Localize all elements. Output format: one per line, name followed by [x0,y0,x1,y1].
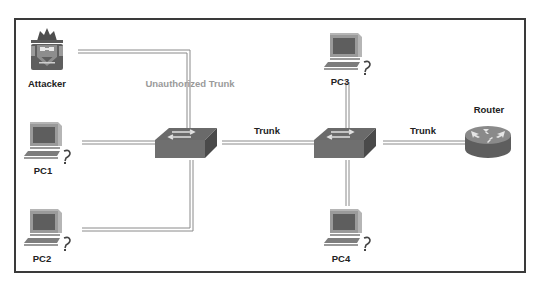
attacker-label: Attacker [28,78,66,89]
pc2-computer-icon [24,209,70,251]
unauthorized-trunk-label: Unauthorized Trunk [145,78,234,89]
link-pc3-switch2 [346,82,349,128]
link-pc1-switch1 [82,141,155,144]
link-attacker-switch1 [78,50,190,128]
link-pc4-switch2 [346,160,349,206]
pc3-computer-icon [324,33,370,75]
link-pc2-switch1 [82,160,193,231]
link-switch2-router [383,141,466,144]
trunk-label-switch1-switch2: Trunk [254,125,280,136]
attacker-icon [31,28,63,70]
pc3-label: PC3 [331,76,349,87]
pc4-computer-icon [324,209,370,251]
pc2-label: PC2 [33,253,51,264]
pc4-label: PC4 [332,253,350,264]
pc1-label: PC1 [34,165,52,176]
router-icon [465,126,511,158]
switch2-icon [314,128,376,158]
pc1-computer-icon [24,122,70,164]
trunk-label-switch2-router: Trunk [410,125,436,136]
router-label: Router [474,104,505,115]
topology-canvas [0,0,540,284]
switch1-icon [155,128,217,158]
link-switch1-switch2 [222,141,314,144]
